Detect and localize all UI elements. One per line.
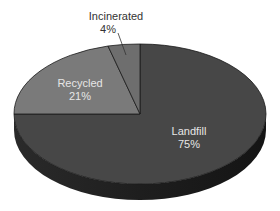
landfill-label: Landfill	[172, 125, 207, 137]
landfill-percent: 75%	[178, 138, 200, 150]
incinerated-label: Incinerated	[89, 10, 143, 22]
incinerated-percent: 4%	[100, 23, 116, 35]
recycled-percent: 21%	[69, 90, 91, 102]
recycled-label: Recycled	[57, 77, 102, 89]
pie-chart: Incinerated 4% Recycled 21% Landfill 75%	[0, 0, 280, 211]
